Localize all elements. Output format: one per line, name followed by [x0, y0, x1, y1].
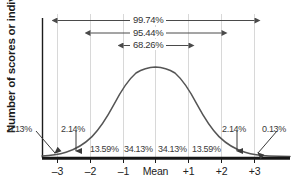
- tail-label-left-013: 0.13%: [8, 124, 32, 134]
- segment-label-1359-left: 13.59%: [90, 144, 119, 154]
- bracket-label-99: 99.74%: [130, 14, 166, 25]
- pointer-right-013: [258, 131, 277, 153]
- normal-distribution-chart: Number of scores or individuals 99.74% 9…: [0, 0, 298, 191]
- segment-label-3413-left: 34.13%: [124, 144, 153, 154]
- tail-label-right-013: 0.13%: [262, 124, 286, 134]
- y-axis-label: Number of scores or individuals: [5, 0, 17, 133]
- tail-label-left-214: 2.14%: [61, 124, 85, 134]
- x-tick-label-plus3: +3: [235, 165, 275, 177]
- bracket-label-95: 95.44%: [130, 27, 166, 38]
- segment-label-3413-right: 34.13%: [158, 144, 187, 154]
- pointer-left-013: [36, 131, 55, 153]
- tail-label-right-214: 2.14%: [222, 124, 246, 134]
- segment-label-1359-right: 13.59%: [192, 144, 221, 154]
- bracket-label-68: 68.26%: [130, 39, 166, 50]
